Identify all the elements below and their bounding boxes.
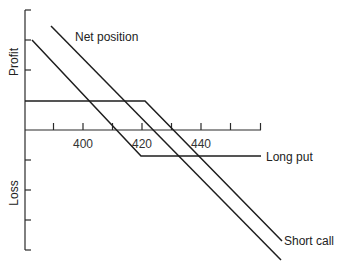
y-label-loss: Loss	[7, 180, 21, 205]
net-position-label: Net position	[75, 30, 138, 44]
y-label-profit: Profit	[7, 47, 21, 76]
payoff-chart: 400 420 440 Profit Loss Net position Lon…	[0, 0, 337, 267]
short-call-line	[25, 101, 282, 241]
long-put-label: Long put	[266, 150, 313, 164]
short-call-label: Short call	[284, 234, 334, 248]
x-tick-label-400: 400	[73, 137, 93, 151]
x-tick-label-440: 440	[191, 137, 211, 151]
x-axis	[25, 123, 261, 130]
